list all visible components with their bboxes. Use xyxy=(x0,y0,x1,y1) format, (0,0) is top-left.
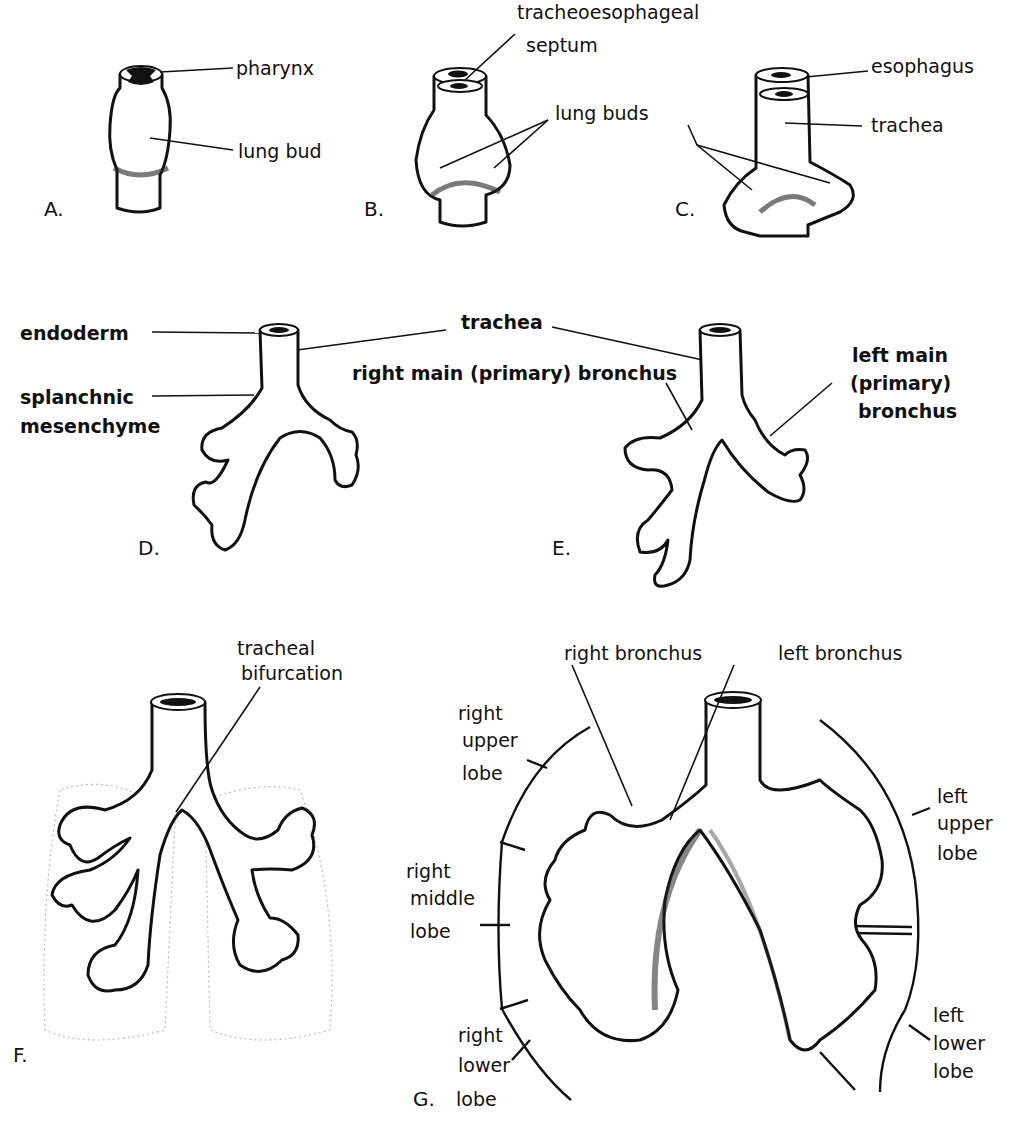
panel-letter-c: C. xyxy=(675,197,695,221)
label-endoderm: endoderm xyxy=(20,322,129,344)
label-rul-3: lobe xyxy=(462,762,503,784)
panel-letter-b: B. xyxy=(364,197,384,221)
label-tracheal: tracheal xyxy=(237,637,315,659)
label-left-bronchus: left bronchus xyxy=(778,642,902,664)
label-left-main: left main xyxy=(852,344,948,366)
panel-letter-f: F. xyxy=(13,1043,28,1067)
lung-development-diagram: pharynx lung bud A. tracheoesophageal se… xyxy=(0,0,1028,1128)
label-right-main-bronchus: right main (primary) bronchus xyxy=(352,362,677,384)
label-lll-1: left xyxy=(933,1004,964,1026)
panel-a: pharynx lung bud A. xyxy=(44,57,322,221)
panel-g: right bronchus left bronchus right upper… xyxy=(406,642,993,1111)
label-left-main-primary: (primary) xyxy=(850,372,951,394)
label-rml-3: lobe xyxy=(410,920,451,942)
label-trachea-de: trachea xyxy=(461,311,543,333)
panel-letter-d: D. xyxy=(138,536,160,560)
label-rml-1: right xyxy=(406,860,451,882)
label-splanchnic: splanchnic xyxy=(20,386,134,408)
label-left-main-bronchus: bronchus xyxy=(858,400,957,422)
label-septum: septum xyxy=(526,34,598,56)
panel-d: endoderm splanchnic mesenchyme D. xyxy=(20,322,446,560)
panel-letter-e: E. xyxy=(552,536,571,560)
label-lll-2: lower xyxy=(933,1032,985,1054)
label-rul-2: upper xyxy=(462,729,518,751)
shared-trachea-label: trachea xyxy=(461,311,712,362)
label-mesenchyme: mesenchyme xyxy=(20,415,160,437)
label-rul-1: right xyxy=(458,702,503,724)
label-trachea-c: trachea xyxy=(871,114,944,136)
label-rll-1: right xyxy=(458,1024,503,1046)
label-lul-2: upper xyxy=(937,812,993,834)
panel-b: tracheoesophageal septum lung buds B. xyxy=(364,1,699,226)
panel-f: tracheal bifurcation F. xyxy=(13,637,343,1067)
label-tracheoesophageal: tracheoesophageal xyxy=(517,1,699,23)
panel-c: esophagus trachea C. xyxy=(675,55,974,236)
label-rll-2: lower xyxy=(458,1054,510,1076)
label-lung-bud: lung bud xyxy=(238,140,322,162)
label-rml-2: middle xyxy=(410,887,475,909)
label-lul-3: lobe xyxy=(937,842,978,864)
label-esophagus: esophagus xyxy=(871,55,974,77)
panel-e: right main (primary) bronchus left main … xyxy=(352,324,957,586)
label-rll-3: lobe xyxy=(456,1088,497,1110)
label-lll-3: lobe xyxy=(933,1060,974,1082)
label-pharynx: pharynx xyxy=(236,57,314,79)
label-bifurcation: bifurcation xyxy=(241,662,343,684)
panel-letter-a: A. xyxy=(44,197,64,221)
panel-letter-g: G. xyxy=(413,1087,435,1111)
label-lul-1: left xyxy=(937,785,968,807)
label-lung-buds: lung buds xyxy=(555,102,649,124)
label-right-bronchus: right bronchus xyxy=(564,642,702,664)
